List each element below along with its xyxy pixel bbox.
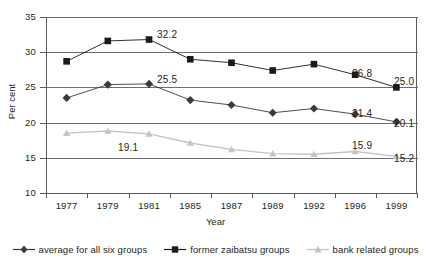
gridline-15 — [47, 158, 418, 159]
gridline-30 — [47, 52, 418, 53]
legend-item-zaibatsu[interactable]: former zaibatsu groups — [164, 244, 289, 255]
legend-label-average: average for all six groups — [39, 244, 148, 255]
x-tick-mark-1996 — [335, 193, 336, 198]
value-label-bank-1981: 19.1 — [118, 142, 138, 153]
plot-area — [46, 17, 417, 193]
x-tick-mark-1989 — [252, 193, 253, 198]
value-label-zaibatsu-1996: 26.8 — [352, 68, 372, 79]
x-tick-mark-1992 — [294, 193, 295, 198]
y-tick-label-30: 30 — [12, 46, 36, 57]
x-tick-mark-1985 — [170, 193, 171, 198]
x-tick-label-1977: 1977 — [44, 200, 90, 211]
value-label-average-1999: 20.1 — [394, 118, 414, 129]
gridline-35 — [47, 17, 418, 18]
legend-label-zaibatsu: former zaibatsu groups — [190, 244, 289, 255]
gridline-20 — [47, 123, 418, 124]
x-tick-mark-1981 — [129, 193, 130, 198]
x-tick-label-1999: 1999 — [374, 200, 420, 211]
x-tick-label-1981: 1981 — [126, 200, 172, 211]
x-tick-label-1979: 1979 — [85, 200, 131, 211]
chart-legend: average for all six groups former zaibat… — [0, 240, 431, 258]
value-label-zaibatsu-1981: 32.2 — [157, 29, 177, 40]
x-tick-label-1987: 1987 — [209, 200, 255, 211]
y-tick-mark-20 — [40, 123, 46, 124]
value-label-zaibatsu-1999: 25.0 — [394, 76, 414, 87]
y-tick-label-15: 15 — [12, 152, 36, 163]
y-tick-mark-15 — [40, 158, 46, 159]
legend-item-bank[interactable]: bank related groups — [307, 244, 419, 255]
line-chart: 35 30 25 20 15 10 1977 1979 1981 1985 19… — [0, 0, 431, 263]
diamond-marker-icon — [13, 244, 35, 255]
x-tick-mark-1987 — [211, 193, 212, 198]
value-label-average-1996: 21.4 — [352, 108, 372, 119]
value-label-average-1981: 25.5 — [157, 74, 177, 85]
legend-label-bank: bank related groups — [333, 244, 419, 255]
y-tick-label-10: 10 — [12, 187, 36, 198]
x-tick-label-1992: 1992 — [291, 200, 337, 211]
x-tick-label-1996: 1996 — [332, 200, 378, 211]
value-label-bank-1996: 15.9 — [352, 140, 372, 151]
y-tick-label-35: 35 — [12, 11, 36, 22]
x-tick-label-1985: 1985 — [167, 200, 213, 211]
y-tick-mark-25 — [40, 87, 46, 88]
value-label-bank-1999: 15.2 — [394, 153, 414, 164]
x-tick-mark-end — [417, 193, 418, 198]
x-tick-mark-1999 — [376, 193, 377, 198]
gridline-25 — [47, 87, 418, 88]
y-tick-mark-30 — [40, 52, 46, 53]
legend-item-average[interactable]: average for all six groups — [13, 244, 148, 255]
x-tick-label-1989: 1989 — [250, 200, 296, 211]
y-tick-mark-35 — [40, 17, 46, 18]
x-axis-title: Year — [0, 216, 431, 227]
x-tick-mark-1979 — [87, 193, 88, 198]
square-marker-icon — [164, 244, 186, 255]
x-axis-line — [46, 193, 417, 194]
y-axis-title: Per cent — [6, 67, 17, 137]
x-tick-mark-1977 — [46, 193, 47, 198]
triangle-marker-icon — [307, 244, 329, 255]
